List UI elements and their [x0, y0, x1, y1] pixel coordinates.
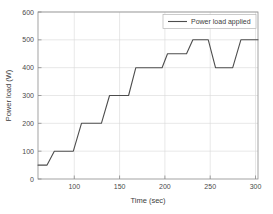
power-load-line-chart: 600 500 400 300 200 100 0 100 150 200 25…: [0, 0, 273, 214]
chart-figure: 600 500 400 300 200 100 0 100 150 200 25…: [0, 0, 273, 214]
y-tick-label: 300: [22, 92, 34, 99]
y-tick-label: 200: [22, 120, 34, 127]
x-tick-label: 100: [68, 183, 80, 190]
y-tick-label: 400: [22, 64, 34, 71]
chart-legend: Power load applied: [163, 15, 256, 29]
x-axis-title: Time (sec): [130, 196, 166, 205]
x-tick-label: 250: [204, 183, 216, 190]
chart-background: [0, 0, 273, 214]
y-tick-label: 0: [30, 176, 34, 183]
x-tick-label: 200: [159, 183, 171, 190]
x-tick-label: 150: [114, 183, 126, 190]
legend-label-power-load-applied: Power load applied: [191, 18, 251, 26]
y-tick-label: 500: [22, 36, 34, 43]
y-axis-title: Power load (W): [4, 69, 13, 121]
y-tick-label: 600: [22, 9, 34, 16]
y-tick-label: 100: [22, 148, 34, 155]
x-tick-label: 300: [250, 183, 262, 190]
